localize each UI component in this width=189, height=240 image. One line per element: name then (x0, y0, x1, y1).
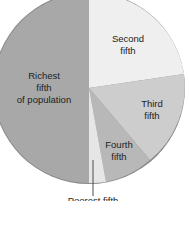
label-richest-line1: Richest (8, 70, 80, 82)
label-second: Second fifth (108, 33, 148, 57)
label-fourth: Fourth fifth (100, 139, 138, 163)
label-third: Third fifth (136, 98, 168, 122)
label-third-line1: Third (136, 98, 168, 110)
label-richest: Richest fifth of population (8, 70, 80, 106)
label-second-line1: Second (108, 33, 148, 45)
label-second-line2: fifth (108, 45, 148, 57)
label-fourth-line2: fifth (100, 151, 138, 163)
label-richest-line2: fifth (8, 82, 80, 94)
label-third-line2: fifth (136, 110, 168, 122)
label-poorest: Poorest fifth (62, 195, 124, 201)
label-fourth-line1: Fourth (100, 139, 138, 151)
label-richest-line3: of population (8, 94, 80, 106)
